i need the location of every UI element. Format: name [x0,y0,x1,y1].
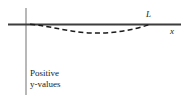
curve-label-L: L [146,10,151,19]
caption-line-2: y-values [30,79,61,90]
x-axis-label: x [170,27,174,36]
figure-container: L x Positive y-values [0,0,190,101]
coordinate-plot [0,0,190,101]
dashed-curve-L [30,24,150,33]
caption-line-1: Positive [30,68,61,79]
caption-positive-y-values: Positive y-values [30,68,61,90]
